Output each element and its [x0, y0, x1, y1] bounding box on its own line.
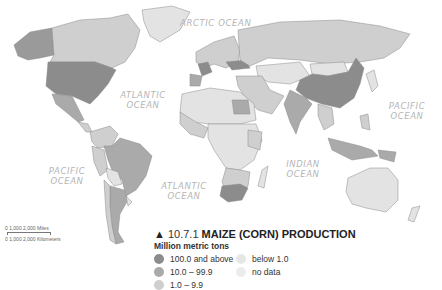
region-madagascar [258, 166, 268, 188]
region-spain [190, 74, 202, 86]
region-japan [366, 70, 378, 92]
region-indonesia [328, 138, 378, 160]
legend-dot-icon [154, 254, 164, 264]
triangle-icon: ▲ [154, 228, 165, 240]
region-new-zealand [408, 206, 420, 222]
legend-dot-icon [154, 267, 164, 277]
region-south-africa [220, 184, 248, 202]
legend-dot-icon [236, 267, 246, 277]
region-uruguay [126, 196, 132, 206]
label-atlantic-ocean-north: ATLANTIC OCEAN [113, 90, 173, 110]
figure-title: ▲ 10.7.1 MAIZE (CORN) PRODUCTION [154, 228, 356, 240]
region-philippines [360, 114, 370, 130]
legend-unit: Million metric tons [154, 241, 356, 251]
scale-bar: 0 1,000 2,000 Miles 0 1,000 2,000 Kilome… [5, 225, 61, 242]
scale-miles: 0 1,000 2,000 Miles [5, 225, 61, 231]
region-australia [346, 168, 398, 212]
legend-dot-icon [154, 280, 164, 290]
legend-dot-icon [236, 254, 246, 264]
label-pacific-ocean-west: PACIFIC OCEAN [42, 166, 92, 186]
map-legend: ▲ 10.7.1 MAIZE (CORN) PRODUCTION Million… [154, 228, 356, 290]
region-papua [378, 150, 396, 162]
region-egypt [232, 100, 250, 114]
label-atlantic-ocean-south: ATLANTIC OCEAN [154, 181, 214, 201]
legend-item-mid: 10.0 – 99.9 [154, 267, 236, 277]
legend-item-high: 100.0 and above [154, 254, 236, 264]
region-se-asia [318, 104, 334, 130]
label-indian-ocean: INDIAN OCEAN [278, 159, 328, 179]
region-alaska [14, 28, 54, 60]
region-russia [238, 20, 410, 66]
legend-item-nodata: no data [236, 267, 316, 277]
label-pacific-ocean-east: PACIFIC OCEAN [382, 101, 432, 121]
legend-item-below: below 1.0 [236, 254, 316, 264]
region-central-america [78, 122, 92, 132]
scale-kilometers: 0 1,000 2,000 Kilometers [5, 236, 61, 242]
scale-bar-line [7, 232, 51, 235]
legend-item-low: 1.0 – 9.9 [154, 280, 236, 290]
region-canada [50, 14, 140, 68]
label-arctic-ocean: ARCTIC OCEAN [180, 18, 251, 28]
figure-title-text: MAIZE (CORN) PRODUCTION [202, 228, 356, 240]
figure-number: 10.7.1 [168, 228, 199, 240]
